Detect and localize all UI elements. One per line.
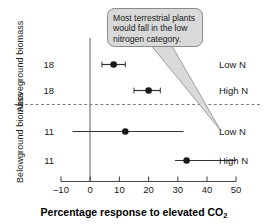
x-axis-title-subscript: 2 [223,211,227,220]
x-tick-label-3: 20 [136,184,162,195]
x-tick-label-2: 10 [106,184,132,195]
x-tick-label-1: 0 [77,184,103,195]
callout-line-2: would fall in the low [113,23,188,34]
chart-figure: Most terrestrial plants would fall in th… [0,0,268,224]
x-axis-title: Percentage response to elevated CO2 [0,206,268,218]
x-tick-label-5: 40 [194,184,220,195]
x-axis-title-main: Percentage response to elevated CO [41,206,224,218]
data-row-aboveground-high-n [134,87,160,94]
x-tick-label-6: 50 [223,184,249,195]
data-point-marker [110,61,117,68]
data-point-marker [183,157,190,164]
data-point-marker [145,87,152,94]
data-row-aboveground-low-n [102,61,125,68]
data-row-belowground-low-n [73,128,184,135]
category-label-aboveground-low-n: Low N [219,59,246,70]
n-label-aboveground-low-n: 18 [36,59,54,70]
n-label-belowground-low-n: 11 [36,126,54,137]
data-point-marker [122,128,129,135]
x-tick-label-4: 30 [165,184,191,195]
n-label-aboveground-high-n: 18 [36,85,54,96]
group-label-belowground: Belowground biomass [15,107,25,183]
category-label-belowground-low-n: Low N [219,126,246,137]
callout-pointer-tail [150,44,221,131]
category-label-aboveground-high-n: High N [219,85,248,96]
n-label-belowground-high-n: 11 [36,155,54,166]
x-axis-ticks [61,177,236,182]
x-tick-label-0: –10 [48,184,74,195]
callout-line-3: nitrogen category. [113,34,181,45]
category-label-belowground-high-n: High N [219,155,248,166]
callout-line-1: Most terrestrial plants [113,13,195,24]
